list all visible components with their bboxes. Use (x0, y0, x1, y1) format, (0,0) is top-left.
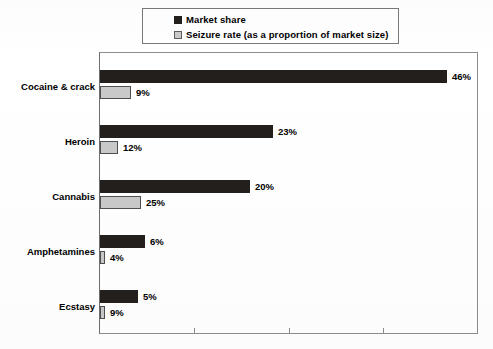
x-axis-tick (194, 328, 195, 333)
bar-value-label: 4% (110, 252, 124, 263)
dark-swatch-icon (174, 16, 182, 24)
category-axis: Cocaine & crack Heroin Cannabis Amphetam… (0, 52, 95, 334)
bar-row-seizure-rate: 12% (100, 141, 142, 154)
plot-inner: 46% 9% 23% 12% (100, 53, 477, 333)
bar-seizure-rate (100, 196, 141, 209)
legend-item-market-share: Market share (174, 12, 398, 27)
bar-value-label: 6% (150, 236, 164, 247)
bar-row-seizure-rate: 4% (100, 251, 124, 264)
bar-market-share (100, 180, 250, 193)
bar-seizure-rate (100, 306, 105, 319)
bar-row-market-share: 46% (100, 70, 471, 83)
bar-value-label: 25% (146, 197, 165, 208)
bar-row-market-share: 5% (100, 290, 157, 303)
bar-group-heroin: 23% 12% (100, 108, 477, 163)
light-swatch-icon (174, 31, 182, 39)
bar-row-market-share: 6% (100, 235, 164, 248)
bar-market-share (100, 70, 447, 83)
bar-value-label: 20% (255, 181, 274, 192)
x-axis-tick (383, 328, 384, 333)
x-axis-tick (477, 328, 478, 333)
plot-area: 46% 9% 23% 12% (99, 52, 478, 334)
bar-market-share (100, 290, 138, 303)
bar-value-label: 9% (110, 307, 124, 318)
bar-row-seizure-rate: 9% (100, 306, 124, 319)
category-label-cocaine-crack: Cocaine & crack (0, 81, 95, 92)
legend-item-label: Seizure rate (as a proportion of market … (186, 29, 388, 40)
bar-market-share (100, 125, 273, 138)
bar-value-label: 46% (452, 71, 471, 82)
category-label-heroin: Heroin (0, 136, 95, 147)
category-label-cannabis: Cannabis (0, 191, 95, 202)
bar-row-market-share: 20% (100, 180, 274, 193)
legend-item-seizure-rate: Seizure rate (as a proportion of market … (174, 27, 398, 42)
x-axis-tick (289, 328, 290, 333)
bar-value-label: 5% (143, 291, 157, 302)
bar-seizure-rate (100, 141, 118, 154)
bar-value-label: 23% (278, 126, 297, 137)
bar-value-label: 12% (123, 142, 142, 153)
bar-seizure-rate (100, 251, 105, 264)
bar-row-seizure-rate: 25% (100, 196, 165, 209)
bar-group-ecstasy: 5% 9% (100, 273, 477, 328)
bar-group-cocaine-crack: 46% 9% (100, 53, 477, 108)
category-label-ecstasy: Ecstasy (0, 301, 95, 312)
bar-row-seizure-rate: 9% (100, 86, 150, 99)
bar-group-cannabis: 20% 25% (100, 163, 477, 218)
legend-item-label: Market share (186, 14, 246, 25)
bar-value-label: 9% (136, 87, 150, 98)
bar-row-market-share: 23% (100, 125, 297, 138)
chart-legend: Market share Seizure rate (as a proporti… (142, 8, 399, 44)
category-label-amphetamines: Amphetamines (0, 246, 95, 257)
bar-market-share (100, 235, 145, 248)
bar-seizure-rate (100, 86, 131, 99)
bar-chart: Market share Seizure rate (as a proporti… (0, 0, 493, 349)
bar-group-amphetamines: 6% 4% (100, 218, 477, 273)
